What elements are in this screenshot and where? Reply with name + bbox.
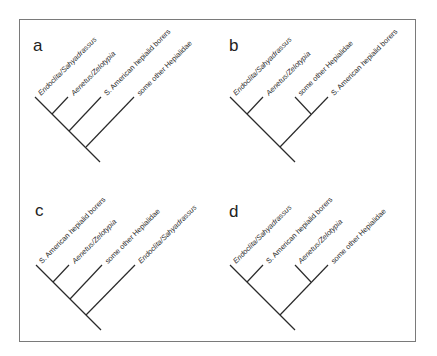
tree-a <box>35 97 134 162</box>
tree-a-branch-3 <box>69 97 101 131</box>
tree-d-branch-3 <box>295 265 311 282</box>
tree-d-branch-2 <box>247 265 263 282</box>
tree-d <box>230 265 328 330</box>
taxon-label: some other Hepialidae <box>103 207 162 266</box>
tree-c-branch-3 <box>70 265 102 299</box>
tree-a-branch-2 <box>52 97 68 114</box>
taxon-label: S. American hepialid borers <box>329 27 399 97</box>
taxon-label: S. American hepialid borers <box>102 27 172 97</box>
tree-b-clade-right <box>280 97 328 147</box>
tree-b <box>230 97 328 162</box>
taxon-label: Endoclita/Sahyadrassus <box>231 35 294 98</box>
panel-letter-c: c <box>35 201 44 220</box>
tree-b-branch-2 <box>247 97 263 114</box>
taxon-label: some other Hepialidae <box>296 39 355 98</box>
tree-b-spine <box>230 97 295 162</box>
taxon-label: Endoclita/Sahyadrassus <box>231 203 294 266</box>
panel-letter-b: b <box>229 36 238 55</box>
taxon-label: some other Hepialidae <box>329 207 388 266</box>
taxon-label: S. American hepialid borers <box>37 195 107 265</box>
tree-a-spine <box>35 97 100 162</box>
tree-b-branch-3 <box>295 97 311 114</box>
panel-letter-a: a <box>33 36 43 55</box>
panel-letter-d: d <box>229 202 238 221</box>
panel-b: b Endoclita/Sahyadrassus Aenetus/Zelotyp… <box>229 27 400 162</box>
tree-c <box>36 265 135 330</box>
panel-c: c S. American hepialid borers Aenetus/Ze… <box>35 195 199 330</box>
tree-c-branch-2 <box>53 265 69 282</box>
taxon-label: Endoclita/Sahyadrassus <box>36 35 99 98</box>
tree-d-clade-right <box>280 265 328 315</box>
tree-c-spine <box>36 265 101 330</box>
tree-d-spine <box>230 265 295 330</box>
panel-d: d Endoclita/Sahyadrassus S. American hep… <box>229 195 388 330</box>
cladogram-figure: a Endoclita/Sahyadrassus Aenetus/Zelotyp… <box>0 0 437 356</box>
tree-c-branch-4 <box>86 265 135 315</box>
panel-a: a Endoclita/Sahyadrassus Aenetus/Zelotyp… <box>33 27 194 162</box>
taxon-label: some other Hepialidae <box>135 39 194 98</box>
taxon-label: Endoclita/Sahyadrassus <box>136 203 199 266</box>
